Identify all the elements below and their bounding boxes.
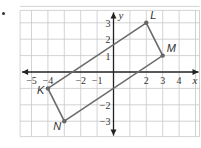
x-tick-label: 3 xyxy=(160,75,165,86)
vertex-point-k xyxy=(46,86,50,90)
x-tick-label: 2 xyxy=(144,75,149,86)
vertex-label-m: M xyxy=(167,42,177,54)
y-axis-arrow-up-icon xyxy=(111,12,117,18)
vertex-label-k: K xyxy=(37,84,45,96)
vertex-point-l xyxy=(144,21,148,25)
y-tick-label: 3 xyxy=(106,18,111,29)
vertex-point-m xyxy=(161,53,165,57)
vertex-point-n xyxy=(62,119,66,123)
x-tick-label: −1 xyxy=(92,75,103,86)
coordinate-plane: xy −5−4−2−1234321−2−3 KLMN xyxy=(0,0,201,148)
vertex-label-l: L xyxy=(150,9,156,21)
x-tick-label: −5 xyxy=(26,75,37,86)
y-tick-label: −3 xyxy=(100,116,111,127)
vertex-label-n: N xyxy=(53,120,61,132)
y-tick-label: −2 xyxy=(100,100,111,111)
y-axis-label: y xyxy=(118,9,124,21)
y-tick-label: 2 xyxy=(106,34,111,45)
x-tick-label: 4 xyxy=(177,75,182,86)
y-axis-arrow-down-icon xyxy=(111,130,117,136)
x-axis-label: x xyxy=(192,74,198,86)
x-tick-label: −2 xyxy=(75,75,86,86)
y-tick-label: 1 xyxy=(106,51,111,62)
